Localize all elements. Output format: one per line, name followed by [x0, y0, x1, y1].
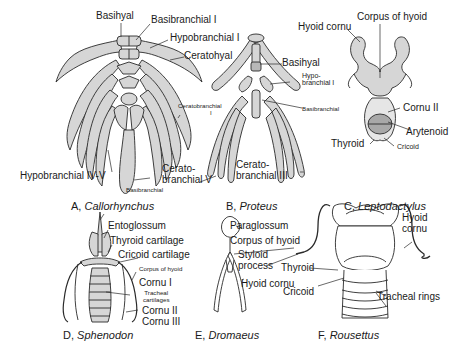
label-a-ceratobranchial-i: Ceratobranchial I — [178, 103, 222, 116]
label-a-ceratobranchial-v: Cerato- branchial V — [162, 164, 212, 185]
label-e-paraglossum: Paraglossum — [230, 221, 288, 231]
label-a-hypobranchial-iv-v: Hypobranchial IV-V — [20, 171, 106, 181]
label-a-basibranchial: Basibranchial — [126, 187, 163, 193]
label-c-cricoid: Cricoid — [397, 143, 419, 150]
caption-c: C, Leptodactylus — [344, 201, 426, 212]
label-d-corpus-of-hyoid: Corpus of hyoid — [139, 266, 182, 272]
caption-f: F, Rousettus — [318, 330, 379, 341]
caption-b: B, Proteus — [226, 201, 277, 212]
label-c-corpus-of-hyoid: Corpus of hyoid — [357, 12, 427, 22]
label-d-thyroid-cartilage: Thyroid cartilage — [110, 236, 184, 246]
caption-d: D, Sphenodon — [63, 330, 133, 341]
label-b-basihyal: Basihyal — [282, 58, 320, 68]
label-c-hyoid-cornu: Hyoid cornu — [298, 22, 351, 32]
label-e-styloid-process: Styloid process — [238, 250, 273, 271]
label-c-arytenoid: Arytenoid — [406, 127, 448, 137]
label-d-cornu-i: Cornu I — [139, 278, 172, 288]
caption-a: A, Callorhynchus — [71, 201, 154, 212]
label-b-hypobranchial-i: Hypo- branchial I — [302, 72, 334, 87]
label-a-basihyal: Basihyal — [96, 11, 134, 21]
label-b-basibranchial: Basibranchial — [302, 106, 339, 112]
label-a-ceratohyal: Ceratohyal — [184, 51, 232, 61]
label-f-hyoid-cornu: Hyoid cornu — [402, 213, 428, 234]
label-d-cricoid-cartilage: Cricoid cartilage — [118, 250, 190, 260]
label-d-tracheal-cartilages: Tracheal cartilages — [143, 290, 169, 303]
label-d-cornu-iii: Cornu III — [142, 317, 180, 327]
label-c-thyroid: Thyroid — [331, 139, 364, 149]
label-f-cricoid: Cricoid — [283, 287, 314, 297]
label-d-entoglossum: Entoglossum — [108, 221, 166, 231]
label-a-hypobranchial-i: Hypobranchial I — [170, 33, 239, 43]
label-f-tracheal-rings: Tracheal rings — [377, 292, 440, 302]
label-d-cornu-ii: Cornu II — [142, 306, 178, 316]
label-e-corpus-of-hyoid: Corpus of hyoid — [230, 236, 300, 246]
label-a-basibranchial-i: Basibranchial I — [151, 15, 217, 25]
label-c-cornu-ii: Cornu II — [403, 103, 439, 113]
label-b-ceratobranchial-iii: Cerato- branchial III — [236, 160, 288, 181]
label-f-thyroid: Thyroid — [281, 263, 314, 273]
caption-e: E, Dromaeus — [195, 330, 259, 341]
